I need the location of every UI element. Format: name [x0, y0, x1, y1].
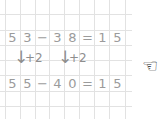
equation-cell: 5: [110, 30, 125, 45]
equation-cell: =: [80, 76, 95, 91]
grid-line: [0, 14, 132, 15]
increment-annotation-minuend: ↓ +2: [14, 49, 43, 66]
equation-cell: 3: [50, 30, 65, 45]
equation-cell: =: [80, 30, 95, 45]
equation-cell: 5: [5, 76, 20, 91]
grid-line: [0, 45, 132, 46]
equation-cell: 1: [95, 30, 110, 45]
equation-cell: −: [35, 76, 50, 91]
equation-cell: 4: [50, 76, 65, 91]
equation-row-adjusted: 5 5 − 4 0 = 1 5: [5, 76, 125, 91]
equation-cell: 5: [110, 76, 125, 91]
grid-line: [0, 91, 132, 92]
increment-label: +2: [25, 52, 43, 64]
pointing-hand-icon: ☜: [142, 57, 158, 75]
equation-cell: 5: [20, 76, 35, 91]
equation-cell: 8: [65, 30, 80, 45]
equation-cell: 1: [95, 76, 110, 91]
equation-cell: 3: [20, 30, 35, 45]
equation-cell: 0: [65, 76, 80, 91]
grid-line: [0, 106, 132, 107]
increment-annotation-subtrahend: ↓ +2: [58, 49, 87, 66]
increment-label: +2: [69, 52, 87, 64]
equation-row-original: 5 3 − 3 8 = 1 5: [5, 30, 125, 45]
equation-cell: −: [35, 30, 50, 45]
equation-cell: 5: [5, 30, 20, 45]
